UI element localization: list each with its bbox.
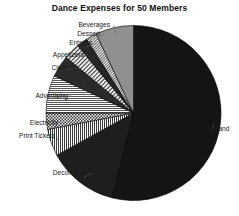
pie-chart-svg: BandDecorationsPrint TicketsElectricityA… bbox=[0, 0, 239, 216]
pie-label-beverages: Beverages bbox=[78, 21, 110, 29]
pie-label-print-tickets: Print Tickets bbox=[19, 132, 56, 139]
pie-label-advertising: Advertising bbox=[35, 92, 68, 100]
pie-label-electricity: Electricity bbox=[30, 119, 59, 127]
pie-label-dessert: Dessert bbox=[77, 30, 100, 37]
pie-chart-figure: Dance Expenses for 50 Members bbox=[0, 0, 239, 216]
pie-label-entrees: Entrees bbox=[69, 39, 92, 46]
pie-label-clean-up: Clean up bbox=[52, 64, 79, 72]
pie-label-decorations: Decorations bbox=[53, 169, 89, 176]
pie-label-appetizers: Appetizers bbox=[53, 51, 85, 59]
pie-label-band: Band bbox=[214, 125, 230, 132]
